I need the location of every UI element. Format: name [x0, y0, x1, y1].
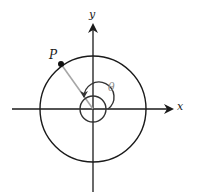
- x-axis-label: x: [177, 100, 183, 113]
- point-label: P: [49, 48, 57, 62]
- diagram-canvas: [0, 0, 197, 196]
- angle-label: θ: [108, 81, 115, 94]
- point-p: [58, 61, 64, 67]
- polar-diagram: P y x θ: [0, 0, 197, 196]
- y-axis-label: y: [89, 8, 95, 21]
